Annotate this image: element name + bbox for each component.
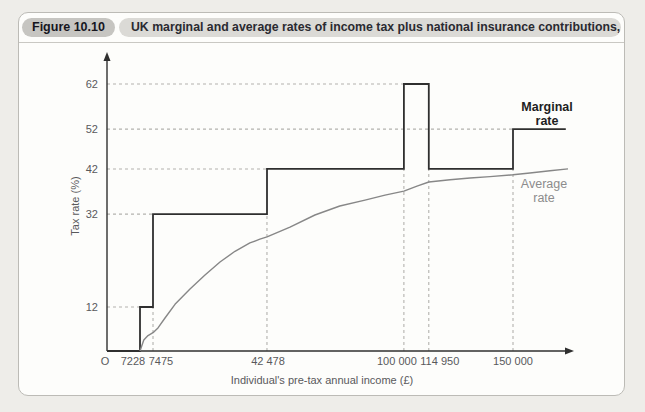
x-tick-42478: 42 478 [251, 355, 285, 367]
x-tick-114950: 114 950 [420, 355, 459, 367]
x-tick-100000: 100 000 [377, 355, 417, 367]
axes [104, 52, 575, 355]
marginal-rate-line [107, 84, 566, 351]
y-tick-12: 12 [86, 301, 98, 313]
y-axis-arrow-icon [104, 52, 111, 61]
y-tick-62: 62 [86, 78, 98, 90]
x-tick-150000: 150 000 [493, 355, 533, 367]
x-axis-title: Individual's pre-tax annual income (£) [231, 374, 413, 386]
y-tick-42: 42 [86, 163, 98, 175]
x-tick-7228: 7228 [121, 355, 145, 367]
x-tick-7475: 7475 [149, 355, 173, 367]
average-rate-label: Averagerate [521, 177, 567, 205]
x-axis-arrow-icon [565, 348, 574, 355]
marginal-rate-label: Marginalrate [521, 100, 572, 128]
y-tick-32: 32 [86, 208, 98, 220]
textbook-figure-page: Figure 10.10 UK marginal and average rat… [0, 0, 645, 412]
average-rate-line [140, 169, 568, 351]
tax-rates-chart: 1232425262O7228747542 478100 000114 9501… [0, 0, 645, 412]
y-tick-52: 52 [86, 123, 98, 135]
x-tick-0: O [101, 355, 110, 367]
y-axis-title: Tax rate (%) [69, 176, 81, 235]
